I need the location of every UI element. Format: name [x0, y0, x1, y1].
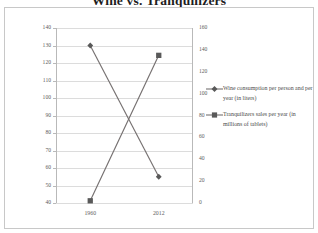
series-tranquilizer-point-1960[interactable] [88, 198, 93, 203]
y-axis-right-tick-label: 120 [199, 69, 207, 75]
y-axis-right-tick-label: 140 [199, 47, 207, 53]
y-axis-right-tick-label: 0 [199, 200, 202, 206]
y-axis-left-tick-label: 140 [43, 25, 51, 31]
legend-label-tranquilizer-sales: Tranquilizers sales per year (in million… [223, 110, 316, 129]
plot-area: 140 130 120 110 100 90 80 70 60 50 40 16… [56, 28, 193, 203]
y-axis-right-tick-label: 40 [199, 156, 205, 162]
chart-legend: Wine consumption per person and per year… [206, 84, 316, 136]
series-tranquilizer-line [90, 55, 159, 200]
y-axis-right-tick-label: 20 [199, 178, 205, 184]
y-axis-left-tick-label: 50 [45, 183, 51, 189]
y-axis-right-tick-label: 60 [199, 135, 205, 141]
series-canvas [56, 28, 193, 203]
tick-mark [53, 203, 56, 204]
legend-label-wine-consumption: Wine consumption per person and per year… [223, 84, 316, 103]
x-axis-tick-label: 2012 [153, 211, 165, 217]
gridline [56, 203, 193, 204]
y-axis-right-tick-label: 80 [199, 113, 205, 119]
y-axis-left-tick-label: 70 [45, 148, 51, 154]
square-marker-icon [206, 111, 223, 119]
legend-item-tranquilizer-sales[interactable]: Tranquilizers sales per year (in million… [206, 110, 316, 129]
y-axis-left-tick-label: 120 [43, 60, 51, 66]
chart-figure: Wine vs. Tranquilizers [0, 0, 318, 233]
series-wine-consumption[interactable] [87, 43, 161, 180]
y-axis-left-tick-label: 40 [45, 200, 51, 206]
y-axis-right-tick-label: 160 [199, 25, 207, 31]
series-wine-point-1960[interactable] [87, 43, 93, 49]
y-axis-left-tick-label: 130 [43, 43, 51, 49]
series-wine-point-2012[interactable] [156, 174, 162, 180]
x-axis-tick-label: 1960 [84, 211, 96, 217]
y-axis-left-tick-label: 60 [45, 165, 51, 171]
series-wine-line [90, 46, 159, 177]
diamond-marker-icon [206, 85, 223, 93]
y-axis-left-tick-label: 90 [45, 113, 51, 119]
y-axis-left-tick-label: 80 [45, 130, 51, 136]
y-axis-left-tick-label: 100 [43, 95, 51, 101]
series-tranquilizer-point-2012[interactable] [156, 53, 161, 58]
y-axis-left-tick-label: 110 [43, 78, 51, 84]
series-tranquilizer-sales[interactable] [88, 53, 162, 204]
legend-item-wine-consumption[interactable]: Wine consumption per person and per year… [206, 84, 316, 103]
